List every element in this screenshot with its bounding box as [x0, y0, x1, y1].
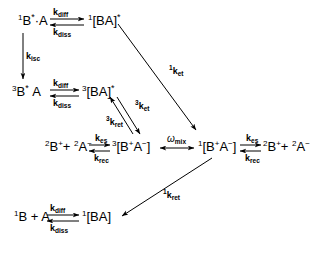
species-ground-state-pair: 1B + A: [14, 210, 50, 223]
rate-label-k-es-right: kes: [246, 134, 258, 143]
rate-label-omega-mix: ωmix: [167, 134, 186, 144]
rate-label-k-diss-row1: kdiss: [53, 28, 71, 37]
rate-label-k-es-left: kes: [95, 134, 107, 143]
species-s1-excited-singlet-pair: 1B*·A: [18, 14, 48, 27]
rate-label-k-rec-left: krec: [94, 154, 109, 163]
reaction-scheme-diagram: 1B*·A1[BA]*3B* A3[BA]*2B++ 2A−3[B+A−]1[B…: [0, 0, 331, 257]
rate-label-k-ret-triplet: 3kret: [106, 118, 123, 127]
species-t1-triplet-exciplex: 3[BA]*: [82, 85, 115, 98]
species-singlet-radical-ion-pair: 1[B+A−]: [198, 140, 236, 153]
rate-label-k-diss-row2: kdiss: [53, 99, 71, 108]
species-s1-singlet-exciplex: 1[BA]*: [88, 14, 121, 27]
rate-label-k-isc: kisc: [26, 52, 40, 61]
rate-label-k-diff-row4: kdiff: [50, 204, 65, 213]
arrow-kret-singlet: [122, 158, 212, 216]
rate-label-k-diss-row4: kdiss: [50, 224, 68, 233]
arrow-ket-singlet: [118, 24, 196, 130]
rate-label-k-et-triplet: 3ket: [135, 102, 149, 111]
species-ground-state-complex: 1[BA]: [82, 210, 111, 223]
species-triplet-radical-ion-pair: 3[B+A−]: [112, 140, 150, 153]
rate-label-k-ret-singlet: 1kret: [163, 191, 180, 200]
rate-label-k-diff-row2: kdiff: [53, 79, 68, 88]
species-free-radical-ions-right: 2B++ 2A−: [263, 140, 310, 153]
rate-label-k-et-singlet: 1ket: [169, 67, 183, 76]
species-free-radical-ions-left: 2B++ 2A−: [45, 140, 92, 153]
arrow-kret-triplet: [110, 97, 133, 134]
species-t1-excited-triplet-pair: 3B* A: [12, 85, 41, 98]
rate-label-k-diff-row1: kdiff: [53, 8, 68, 17]
rate-label-k-rec-right: krec: [245, 154, 260, 163]
